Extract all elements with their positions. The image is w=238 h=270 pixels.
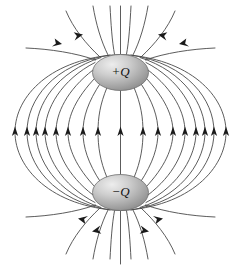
field-line-up-l4 — [26, 48, 96, 60]
field-arrow-up-right-outer — [179, 39, 189, 47]
field-arrow-down-left-outer — [78, 216, 88, 224]
field-loop-l5 — [45, 63, 95, 203]
field-line-down-l1 — [110, 211, 115, 259]
dipole-field-figure: +Q −Q — [0, 0, 238, 270]
positive-charge[interactable]: +Q — [93, 55, 149, 91]
field-line-up-l2 — [93, 6, 108, 55]
field-arrow-up-left-outer — [52, 39, 62, 47]
field-line-down-r1 — [127, 211, 132, 259]
dipole-field-diagram: +Q −Q — [0, 0, 238, 270]
field-arrow-up-left-mid — [74, 32, 83, 40]
field-line-down-l2 — [93, 210, 108, 259]
positive-charge-label: +Q — [111, 64, 130, 79]
field-line-group — [15, 6, 226, 264]
field-line-up-r2 — [133, 6, 148, 55]
field-line-down-r2 — [133, 210, 148, 259]
field-arrow-up-right-mid — [158, 32, 167, 40]
field-line-up-r4 — [146, 48, 216, 60]
field-line-up-r1 — [127, 6, 132, 54]
field-arrow-down-right-outer — [153, 216, 163, 224]
negative-charge-label: −Q — [111, 184, 130, 199]
negative-charge[interactable]: −Q — [93, 175, 149, 211]
field-loop-r5 — [146, 63, 196, 203]
field-line-up-l1 — [110, 6, 115, 54]
field-line-down-l4 — [26, 205, 96, 217]
field-line-down-r4 — [146, 205, 216, 217]
